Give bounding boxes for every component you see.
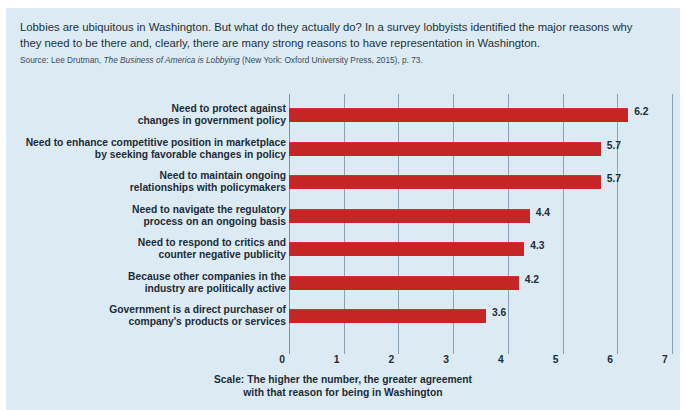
bar-value-label: 5.7 [607,140,621,151]
bar-category-label-line: Need to enhance competitive position in … [0,136,286,148]
bar-category-label-line: relationships with policymakers [0,182,286,194]
bar-row: Government is a direct purchaser ofcompa… [6,301,680,331]
bar-category-label-line: Need to navigate the regulatory [0,203,286,215]
x-tick-label-0: 0 [279,354,285,365]
source-line: Source: Lee Drutman, The Business of Ame… [20,55,650,66]
bar [289,276,519,290]
bar-category-label-line: company's products or services [0,316,286,328]
bar-row: Need to navigate the regulatoryprocess o… [6,201,680,231]
bar [289,242,524,256]
chart-plot-area: Need to protect againstchanges in govern… [6,94,680,364]
x-tick-label-3: 3 [443,354,449,365]
intro-paragraph: Lobbies are ubiquitous in Washington. Bu… [20,20,650,51]
bar-value-label: 6.2 [634,106,648,117]
bar-row: Because other companies in theindustry a… [6,268,680,298]
bar-category-label-line: by seeking favorable changes in policy [0,149,286,161]
bar-value-label: 5.7 [607,173,621,184]
x-tick-label-7: 7 [662,354,668,365]
intro-block: Lobbies are ubiquitous in Washington. Bu… [20,20,650,66]
bar-category-label-line: Because other companies in the [0,270,286,282]
x-tick-label-4: 4 [498,354,504,365]
bar-row: Need to enhance competitive position in … [6,134,680,164]
bar-category-label: Need to enhance competitive position in … [0,136,286,161]
bar-value-label: 3.6 [492,307,506,318]
bar [289,209,530,223]
bar-row: Need to protect againstchanges in govern… [6,100,680,130]
scale-caption-line-2: with that reason for being in Washington [6,387,680,400]
bar-category-label-line: Government is a direct purchaser of [0,304,286,316]
bar-category-label-line: Need to maintain ongoing [0,170,286,182]
bar [289,142,601,156]
bar [289,309,486,323]
x-axis-ticks: 01234567 [6,354,680,372]
bar-category-label-line: Need to respond to critics and [0,237,286,249]
bar-row: Need to respond to critics andcounter ne… [6,234,680,264]
bar-category-label-line: industry are politically active [0,283,286,295]
bar-category-label: Government is a direct purchaser ofcompa… [0,304,286,329]
bar-category-label-line: process on an ongoing basis [0,216,286,228]
bar-category-label: Because other companies in theindustry a… [0,270,286,295]
scale-caption-line-1: Scale: The higher the number, the greate… [6,374,680,387]
source-title: The Business of America is Lobbying [103,55,239,65]
bar [289,108,628,122]
x-tick-label-5: 5 [553,354,559,365]
figure-panel: Lobbies are ubiquitous in Washington. Bu… [6,8,680,410]
bar-category-label: Need to respond to critics andcounter ne… [0,237,286,262]
scale-caption: Scale: The higher the number, the greate… [6,374,680,399]
bar-category-label: Need to navigate the regulatoryprocess o… [0,203,286,228]
bar-category-label: Need to protect againstchanges in govern… [0,103,286,128]
bar [289,175,601,189]
source-prefix: Source: Lee Drutman, [20,55,103,65]
bar-value-label: 4.2 [525,274,539,285]
bar-row: Need to maintain ongoingrelationships wi… [6,167,680,197]
bar-value-label: 4.4 [536,207,550,218]
bar-category-label-line: Need to protect against [0,103,286,115]
bar-category-label-line: changes in government policy [0,115,286,127]
source-suffix: (New York: Oxford University Press, 2015… [240,55,423,65]
x-tick-label-2: 2 [389,354,395,365]
bar-value-label: 4.3 [530,240,544,251]
bar-category-label-line: counter negative publicity [0,249,286,261]
x-tick-label-1: 1 [334,354,340,365]
bar-category-label: Need to maintain ongoingrelationships wi… [0,170,286,195]
x-tick-label-6: 6 [607,354,613,365]
